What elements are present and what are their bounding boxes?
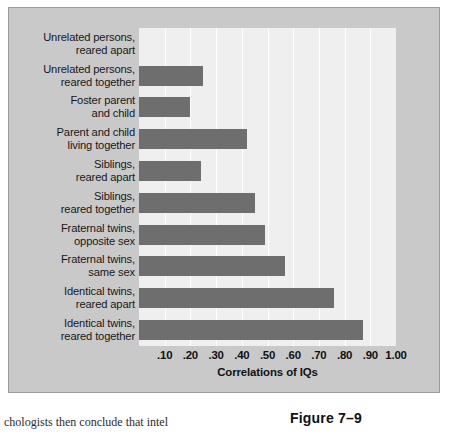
figure-panel: Unrelated persons,reared apartUnrelated … [8,7,440,393]
category-label-line: Unrelated persons, [43,63,135,76]
caption-row: chologists then conclude that intel Figu… [0,398,455,433]
bar-row [139,92,396,124]
bar-row [139,219,396,251]
category-label-line: opposite sex [74,235,135,248]
bar [139,225,265,245]
category-label: Foster parentand child [13,92,139,124]
category-label-line: Fraternal twins, [61,222,135,235]
bar-row [139,60,396,92]
x-tick-label: .40 [234,349,249,361]
bar-row [139,155,396,187]
category-label-line: Foster parent [70,94,135,107]
bar [139,288,334,308]
category-label-line: reared apart [76,298,135,311]
bar [139,66,203,86]
bar-series [139,28,396,346]
category-label-line: living together [68,139,135,152]
category-label-line: reared apart [76,171,135,184]
x-axis-title: Correlations of IQs [139,366,396,378]
bar-row [139,282,396,314]
category-label: Fraternal twins,same sex [13,251,139,283]
x-tick-label: .20 [183,349,198,361]
category-label: Fraternal twins,opposite sex [13,219,139,251]
figure-number-label: Figure 7–9 [290,410,362,426]
bar [139,129,247,149]
x-tick-label: .70 [311,349,326,361]
category-label: Identical twins,reared together [13,314,139,346]
iq-correlation-bar-chart: Unrelated persons,reared apartUnrelated … [9,8,441,394]
category-label-line: reared together [61,330,135,343]
category-label-line: reared together [61,203,135,216]
category-label-line: same sex [88,266,135,279]
category-label-line: Parent and child [57,126,135,139]
bar [139,161,201,181]
x-tick-label: .80 [337,349,352,361]
bar-row [139,314,396,346]
category-axis: Unrelated persons,reared apartUnrelated … [13,28,139,346]
category-label-line: reared apart [76,44,135,57]
x-tick-label: 1.00 [385,349,406,361]
category-label-line: Unrelated persons, [43,31,135,44]
category-label-line: Identical twins, [64,285,135,298]
bar [139,256,285,276]
category-label: Identical twins,reared apart [13,282,139,314]
bar [139,97,190,117]
bar-row [139,123,396,155]
category-label: Unrelated persons,reared apart [13,28,139,60]
body-text-fragment: chologists then conclude that intel [4,415,214,430]
bar-row [139,251,396,283]
category-label: Siblings,reared apart [13,155,139,187]
category-label-line: Siblings, [94,158,135,171]
category-label-line: Fraternal twins, [61,253,135,266]
x-axis-ticks: .10.20.30.40.50.60.70.80.901.00 [139,349,396,364]
bar-row [139,28,396,60]
plot-area [139,28,396,346]
category-label-line: and child [92,107,135,120]
category-label-line: Identical twins, [64,317,135,330]
category-label: Unrelated persons,reared together [13,60,139,92]
category-label: Siblings,reared together [13,187,139,219]
bar-row [139,187,396,219]
category-label: Parent and childliving together [13,123,139,155]
category-label-line: Siblings, [94,190,135,203]
x-tick-label: .30 [208,349,223,361]
x-tick-label: .10 [157,349,172,361]
bar [139,193,255,213]
x-tick-label: .50 [260,349,275,361]
x-tick-label: .90 [363,349,378,361]
x-tick-label: .60 [286,349,301,361]
bar [139,320,363,340]
category-label-line: reared together [61,76,135,89]
